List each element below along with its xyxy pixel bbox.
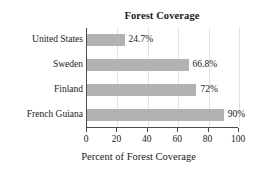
x-tick-mark (116, 128, 117, 132)
x-tick-label: 0 (71, 133, 101, 145)
x-tick-mark (86, 128, 87, 132)
bar[interactable] (87, 109, 224, 121)
bar-value-label: 90% (228, 107, 245, 122)
x-tick-label: 60 (162, 133, 192, 145)
category-label: Sweden (1, 58, 83, 70)
bar-value-label: 66.8% (193, 57, 218, 72)
plot-area: 24.7%66.8%72%90% (86, 28, 238, 128)
x-tick-mark (177, 128, 178, 132)
x-tick-mark (238, 128, 239, 132)
bar-row: 66.8% (87, 53, 238, 78)
x-tick-label: 40 (132, 133, 162, 145)
chart-title: Forest Coverage (86, 10, 238, 22)
x-tick-label: 100 (223, 133, 253, 145)
bar-value-label: 24.7% (129, 32, 154, 47)
x-tick-mark (208, 128, 209, 132)
x-tick-label: 20 (101, 133, 131, 145)
category-label: United States (1, 33, 83, 45)
x-tick-label: 80 (193, 133, 223, 145)
x-tick-mark (147, 128, 148, 132)
bar-value-label: 72% (200, 82, 217, 97)
chart-figure: Forest Coverage 24.7%66.8%72%90% United … (0, 0, 255, 171)
category-label: French Guiana (1, 108, 83, 120)
bar[interactable] (87, 84, 196, 96)
bar-row: 90% (87, 103, 238, 128)
bar[interactable] (87, 34, 125, 46)
category-label: Finland (1, 83, 83, 95)
x-axis-title: Percent of Forest Coverage (0, 150, 255, 163)
bar-row: 72% (87, 78, 238, 103)
bar-row: 24.7% (87, 28, 238, 53)
bar[interactable] (87, 59, 189, 71)
